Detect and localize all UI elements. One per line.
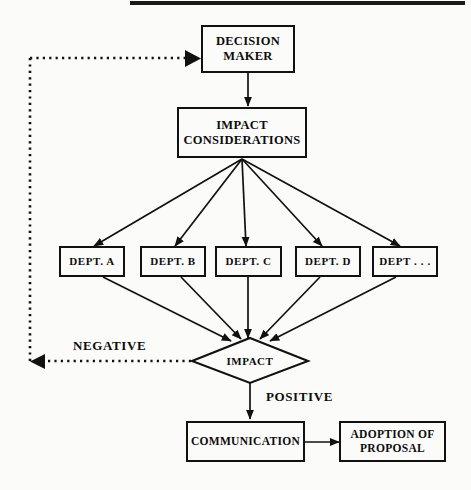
node-impact-considerations-line2: CONSIDERATIONS (183, 133, 300, 147)
node-decision-maker-line2: MAKER (223, 49, 272, 63)
node-adoption-line2: PROPOSAL (360, 442, 425, 454)
node-dept-e[interactable]: DEPT . . . (372, 246, 438, 277)
negative-feedback-arrowhead (30, 354, 45, 369)
edge-label-positive: POSITIVE (266, 389, 333, 405)
edge-considerations-to-dept-d (242, 159, 322, 246)
decision-maker-inbound-arrowhead (185, 50, 201, 67)
node-communication-label: COMMUNICATION (191, 435, 300, 449)
edge-considerations-to-dept-a (94, 159, 242, 246)
node-dept-a-label: DEPT. A (69, 255, 115, 268)
node-impact-diamond-label: IMPACT (215, 355, 285, 367)
node-dept-b-label: DEPT. B (150, 255, 196, 268)
node-adoption-line1: ADOPTION OF (350, 428, 434, 440)
node-dept-d-label: DEPT. D (305, 255, 351, 268)
node-adoption-of-proposal[interactable]: ADOPTION OF PROPOSAL (339, 421, 446, 462)
node-impact-considerations-line1: IMPACT (216, 118, 268, 132)
node-dept-a[interactable]: DEPT. A (59, 246, 125, 277)
node-dept-c[interactable]: DEPT. C (215, 246, 282, 277)
node-impact-considerations-label: IMPACT CONSIDERATIONS (183, 118, 300, 148)
edge-considerations-to-dept-e (242, 159, 400, 246)
node-dept-c-label: DEPT. C (225, 255, 271, 268)
edge-considerations-to-dept-b (175, 159, 242, 246)
node-adoption-label: ADOPTION OF PROPOSAL (350, 428, 434, 455)
node-impact-considerations[interactable]: IMPACT CONSIDERATIONS (177, 107, 307, 158)
edge-label-negative-text: NEGATIVE (73, 338, 146, 353)
edge-label-positive-text: POSITIVE (266, 389, 333, 404)
node-impact-label-text: IMPACT (227, 355, 274, 367)
node-dept-b[interactable]: DEPT. B (140, 246, 206, 277)
connector-layer (0, 0, 471, 490)
edge-considerations-to-dept-c (242, 159, 246, 246)
node-communication[interactable]: COMMUNICATION (186, 421, 305, 462)
node-dept-d[interactable]: DEPT. D (295, 246, 361, 277)
node-decision-maker-label: DECISION MAKER (216, 34, 280, 64)
node-decision-maker-line1: DECISION (216, 34, 280, 48)
edge-dept-d-to-impact (260, 277, 320, 339)
node-decision-maker[interactable]: DECISION MAKER (201, 25, 295, 73)
edge-label-negative: NEGATIVE (73, 338, 146, 354)
node-dept-e-label: DEPT . . . (379, 255, 431, 268)
diagram-canvas: DECISION MAKER IMPACT CONSIDERATIONS DEP… (0, 0, 471, 490)
edge-dept-b-to-impact (181, 277, 241, 339)
